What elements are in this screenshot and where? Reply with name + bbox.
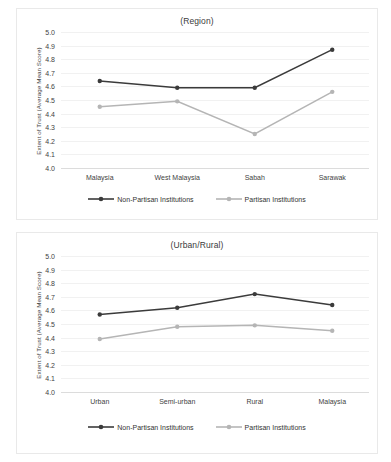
- legend-label-non-partisan: Non-Partisan Institutions: [117, 424, 193, 431]
- series-line: [100, 92, 333, 134]
- chart-title-region: (Region): [17, 9, 377, 26]
- x-tick-label: Sarawak: [319, 174, 346, 181]
- data-point: [253, 323, 257, 327]
- data-point: [98, 79, 102, 83]
- legend-label-non-partisan: Non-Partisan Institutions: [117, 196, 193, 203]
- x-axis-ticks-urban-rural: UrbanSemi-urbanRuralMalaysia: [17, 398, 377, 412]
- series-line: [100, 294, 333, 314]
- data-point: [98, 337, 102, 341]
- legend-item-non-partisan: Non-Partisan Institutions: [88, 195, 193, 203]
- plot-area-urban-rural: Extent of Trust (Average Mean Score) 5.0…: [17, 250, 377, 400]
- data-point: [253, 132, 257, 136]
- data-point: [175, 86, 179, 90]
- chart-panel-region: (Region) Extent of Trust (Average Mean S…: [16, 8, 378, 220]
- x-axis-ticks-region: MalaysiaWest MalaysiaSabahSarawak: [17, 174, 377, 188]
- data-point: [330, 47, 334, 51]
- legend-label-partisan: Partisan Institutions: [245, 196, 306, 203]
- legend-label-partisan: Partisan Institutions: [245, 424, 306, 431]
- data-point: [175, 305, 179, 309]
- chart-title-urban-rural: (Urban/Rural): [17, 233, 377, 250]
- figure-root: (Region) Extent of Trust (Average Mean S…: [0, 0, 391, 462]
- legend-item-partisan: Partisan Institutions: [216, 195, 306, 203]
- data-point: [330, 90, 334, 94]
- data-point: [330, 329, 334, 333]
- legend-item-non-partisan: Non-Partisan Institutions: [88, 423, 193, 431]
- legend-item-partisan: Partisan Institutions: [216, 423, 306, 431]
- legend-swatch-non-partisan-icon: [88, 423, 114, 431]
- x-tick-label: Semi-urban: [159, 398, 195, 405]
- x-tick-label: West Malaysia: [155, 174, 200, 181]
- data-point: [175, 99, 179, 103]
- data-point: [98, 105, 102, 109]
- data-point: [253, 292, 257, 296]
- chart-panel-urban-rural: (Urban/Rural) Extent of Trust (Average M…: [16, 232, 378, 454]
- x-tick-label: Urban: [90, 398, 109, 405]
- series-lines-region: [17, 26, 379, 176]
- x-tick-label: Malaysia: [318, 398, 346, 405]
- legend-urban-rural: Non-Partisan Institutions Partisan Insti…: [17, 423, 377, 431]
- x-tick-label: Rural: [246, 398, 263, 405]
- data-point: [98, 312, 102, 316]
- legend-swatch-partisan-icon: [216, 423, 242, 431]
- series-line: [100, 325, 333, 339]
- x-tick-label: Malaysia: [86, 174, 114, 181]
- x-tick-label: Sabah: [245, 174, 265, 181]
- data-point: [253, 86, 257, 90]
- data-point: [330, 303, 334, 307]
- legend-swatch-partisan-icon: [216, 195, 242, 203]
- plot-area-region: Extent of Trust (Average Mean Score) 5.0…: [17, 26, 377, 176]
- legend-swatch-non-partisan-icon: [88, 195, 114, 203]
- series-line: [100, 50, 333, 88]
- legend-region: Non-Partisan Institutions Partisan Insti…: [17, 195, 377, 203]
- data-point: [175, 325, 179, 329]
- series-lines-urban-rural: [17, 250, 379, 400]
